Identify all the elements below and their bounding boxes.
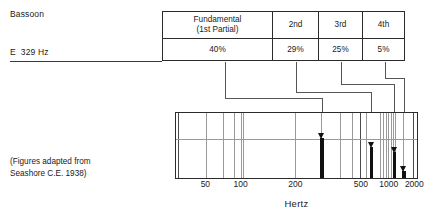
pitch-underline bbox=[10, 61, 162, 62]
leader-fundamental bbox=[226, 62, 323, 113]
axis-tick-label: 2000 bbox=[405, 179, 424, 189]
gridline bbox=[380, 113, 381, 178]
table-header-row: Fundamental (1st Partial) 2nd 3rd 4th bbox=[163, 12, 404, 38]
partials-table: Fundamental (1st Partial) 2nd 3rd 4th 40… bbox=[162, 11, 405, 61]
axis-tick-label: 50 bbox=[201, 179, 210, 189]
bassoon-spectrum-figure: Bassoon E 329 Hz Fundamental (1st Partia… bbox=[0, 0, 441, 221]
axis-tick-label: 200 bbox=[288, 179, 302, 189]
axis-title: Hertz bbox=[175, 198, 418, 209]
value-cell-3rd: 25% bbox=[319, 39, 363, 61]
header-cell-2nd: 2nd bbox=[273, 12, 319, 38]
plot-midline bbox=[176, 139, 417, 140]
gridline bbox=[243, 113, 244, 178]
gridline bbox=[388, 113, 389, 178]
spectrum-bar bbox=[393, 152, 396, 178]
axis-tick-label: 1000 bbox=[379, 179, 398, 189]
gridline bbox=[413, 113, 414, 178]
gridline bbox=[360, 113, 361, 178]
gridline bbox=[206, 113, 207, 178]
instrument-label: Bassoon bbox=[10, 9, 44, 19]
axis-tick-label: 500 bbox=[354, 179, 368, 189]
gridline bbox=[234, 113, 235, 178]
gridline bbox=[352, 113, 353, 178]
gridline bbox=[295, 113, 296, 178]
gridline bbox=[340, 113, 341, 178]
gridline bbox=[383, 113, 384, 178]
header-cell-3rd: 3rd bbox=[319, 12, 363, 38]
source-note: (Figures adapted from Seashore C.E. 1938… bbox=[10, 156, 91, 180]
table-value-row: 40% 29% 25% 5% bbox=[163, 38, 404, 61]
axis-tick-labels: 5010020050010002000 bbox=[175, 179, 418, 191]
bar-arrow-icon bbox=[400, 166, 406, 172]
leader-3rd bbox=[342, 62, 395, 113]
value-cell-4th: 5% bbox=[363, 39, 404, 61]
spectrum-bar bbox=[370, 147, 373, 178]
value-cell-2nd: 29% bbox=[273, 39, 319, 61]
gridline bbox=[178, 113, 179, 178]
leader-4th bbox=[386, 62, 405, 113]
bar-arrow-icon bbox=[318, 133, 324, 139]
bar-arrow-icon bbox=[368, 142, 374, 148]
axis-tick-label: 100 bbox=[234, 179, 248, 189]
spectrum-bar bbox=[402, 171, 406, 178]
leader-2nd bbox=[297, 62, 372, 113]
bar-arrow-icon bbox=[391, 147, 397, 153]
gridline bbox=[241, 113, 242, 178]
spectrum-plot bbox=[175, 112, 418, 179]
pitch-label: E 329 Hz bbox=[10, 47, 49, 57]
header-cell-4th: 4th bbox=[363, 12, 404, 38]
spectrum-bar bbox=[320, 138, 324, 178]
header-cell-fundamental: Fundamental (1st Partial) bbox=[163, 12, 273, 38]
value-cell-fundamental: 40% bbox=[163, 39, 273, 61]
gridline bbox=[223, 113, 224, 178]
